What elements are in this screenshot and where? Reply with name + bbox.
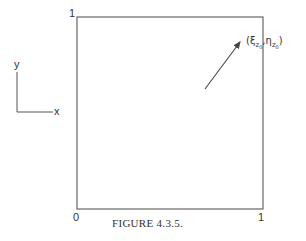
arrow-vector bbox=[205, 42, 240, 89]
corner-label-bottom-left: 0 bbox=[73, 212, 79, 223]
corner-label-top-left: 1 bbox=[69, 8, 75, 19]
point-label: (ξz0,ηz0) bbox=[246, 36, 283, 50]
unit-square bbox=[77, 17, 263, 209]
figure-caption: FIGURE 4.3.5. bbox=[112, 218, 183, 229]
x-axis-label: x bbox=[54, 106, 60, 117]
axes-indicator bbox=[17, 72, 53, 112]
corner-label-bottom-right: 1 bbox=[258, 212, 264, 223]
y-axis-label: y bbox=[14, 59, 20, 70]
